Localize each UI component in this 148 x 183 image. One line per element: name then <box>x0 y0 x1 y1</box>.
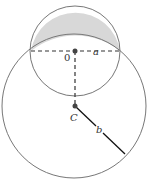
origin-point <box>73 49 78 54</box>
radius-b-line-2 <box>103 133 125 154</box>
origin-label: 0 <box>64 52 70 63</box>
radius-b-line-1 <box>75 106 96 126</box>
center-c-point <box>73 104 78 109</box>
intersecting-circles-diagram: 0 a C b <box>0 0 148 183</box>
radius-a-label: a <box>93 46 99 57</box>
radius-b-label: b <box>96 124 102 135</box>
center-c-label: C <box>70 112 78 123</box>
